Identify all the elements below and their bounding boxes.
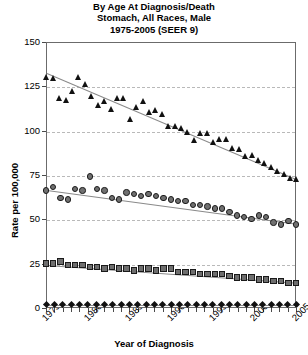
data-point-diamond (284, 301, 291, 308)
data-point-triangle (210, 139, 216, 145)
data-point-diamond (126, 301, 133, 308)
data-point-diamond (143, 301, 150, 308)
data-point-square (145, 265, 151, 271)
data-point-square (57, 258, 63, 264)
data-point-circle (94, 186, 100, 192)
y-tick-label-50: 50 (0, 214, 40, 224)
data-point-triangle (140, 98, 146, 104)
y-tick-label-125: 125 (0, 81, 40, 91)
data-point-diamond (193, 301, 200, 308)
data-point-square (285, 280, 291, 286)
x-tick-mark-1978 (71, 308, 72, 312)
data-point-circle (50, 184, 56, 190)
data-point-triangle (69, 88, 75, 94)
data-point-triangle (223, 136, 229, 142)
data-point-square (101, 265, 107, 271)
data-point-triangle (229, 145, 235, 151)
data-point-circle (160, 195, 166, 201)
data-point-circle (43, 187, 49, 193)
data-point-square (65, 262, 71, 268)
data-point-triangle (63, 97, 69, 103)
data-point-triangle (159, 111, 165, 117)
data-point-diamond (109, 301, 116, 308)
data-point-circle (219, 205, 225, 211)
x-tick-mark-1998 (238, 308, 239, 312)
data-point-triangle (50, 75, 56, 81)
data-point-triangle (274, 168, 280, 174)
data-point-triangle (216, 136, 222, 142)
x-tick-mark-1983 (113, 308, 114, 312)
data-point-triangle (287, 175, 293, 181)
x-tick-mark-1988 (154, 308, 155, 312)
data-point-triangle (120, 95, 126, 101)
data-point-triangle (184, 129, 190, 135)
x-tick-mark-1984 (121, 308, 122, 312)
data-point-square (72, 262, 78, 268)
gridline-100 (47, 132, 295, 133)
data-point-square (226, 273, 232, 279)
data-point-triangle (56, 95, 62, 101)
data-point-diamond (118, 301, 125, 308)
data-point-diamond (268, 301, 275, 308)
x-tick-mark-1979 (79, 308, 80, 312)
data-point-triangle (108, 106, 114, 112)
data-point-diamond (251, 301, 258, 308)
data-point-triangle (204, 130, 210, 136)
data-point-triangle (268, 164, 274, 170)
data-point-circle (204, 203, 210, 209)
chart-title: By Age At Diagnosis/Death Stomach, All R… (0, 1, 308, 35)
data-point-circle (57, 195, 63, 201)
data-point-circle (131, 191, 137, 197)
data-point-diamond (68, 301, 75, 308)
x-tick-mark-1994 (204, 308, 205, 312)
data-point-triangle (281, 171, 287, 177)
data-point-triangle (152, 107, 158, 113)
x-tick-mark-2003 (279, 308, 280, 312)
data-point-diamond (243, 301, 250, 308)
data-point-square (43, 260, 49, 266)
data-point-square (123, 265, 129, 271)
data-point-diamond (159, 301, 166, 308)
data-point-circle (190, 202, 196, 208)
data-point-circle (138, 193, 144, 199)
chart-figure: By Age At Diagnosis/Death Stomach, All R… (0, 0, 308, 355)
data-point-diamond (234, 301, 241, 308)
data-point-circle (87, 173, 93, 179)
data-point-square (87, 264, 93, 270)
data-point-diamond (59, 301, 66, 308)
x-tick-mark-1982 (104, 308, 105, 312)
data-point-square (212, 271, 218, 277)
data-point-diamond (259, 301, 266, 308)
data-point-triangle (95, 102, 101, 108)
data-point-triangle (127, 116, 133, 122)
x-tick-mark-1977 (63, 308, 64, 312)
data-point-diamond (101, 301, 108, 308)
data-point-circle (153, 193, 159, 199)
chart-title-line-2: Stomach, All Races, Male (0, 12, 308, 23)
data-point-triangle (236, 146, 242, 152)
data-point-circle (234, 212, 240, 218)
data-point-triangle (88, 93, 94, 99)
x-tick-mark-1993 (196, 308, 197, 312)
data-point-circle (109, 195, 115, 201)
x-tick-mark-2002 (271, 308, 272, 312)
data-point-square (175, 269, 181, 275)
data-point-square (190, 269, 196, 275)
data-point-square (293, 280, 299, 286)
data-point-square (79, 262, 85, 268)
gridline-75 (47, 176, 295, 177)
data-point-triangle (114, 95, 120, 101)
data-point-diamond (76, 301, 83, 308)
data-point-circle (65, 196, 71, 202)
y-tick-label-0: 0 (0, 303, 40, 313)
data-point-diamond (151, 301, 158, 308)
data-point-circle (270, 219, 276, 225)
data-point-square (50, 260, 56, 266)
data-point-square (248, 274, 254, 280)
data-point-square (197, 271, 203, 277)
x-tick-mark-1987 (146, 308, 147, 312)
data-point-triangle (75, 74, 81, 80)
data-point-diamond (184, 301, 191, 308)
y-tick-label-100: 100 (0, 126, 40, 136)
data-point-triangle (293, 176, 299, 182)
